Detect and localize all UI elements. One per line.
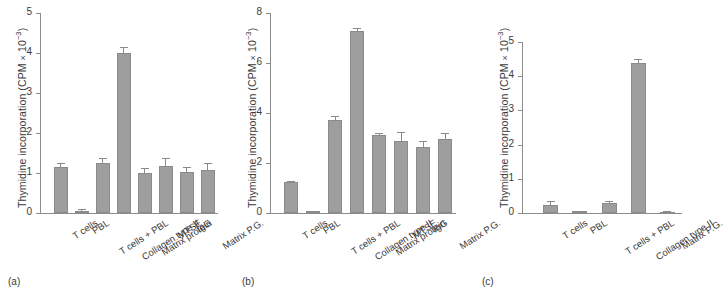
y-axis-tick-label: 2 bbox=[244, 156, 262, 167]
error-bar-cap bbox=[309, 211, 317, 212]
y-axis-label: Thymidine incorporation (CPM × 10−3) bbox=[244, 28, 258, 208]
y-axis-tick bbox=[36, 93, 40, 94]
y-axis-tick-label: 5 bbox=[14, 6, 32, 17]
bar bbox=[138, 173, 152, 213]
y-axis-tick-label: 3 bbox=[496, 103, 514, 114]
error-bar-cap bbox=[162, 158, 170, 159]
y-axis-tick bbox=[518, 145, 522, 146]
y-axis-tick bbox=[266, 13, 270, 14]
bar bbox=[159, 166, 173, 213]
error-bar bbox=[207, 163, 208, 170]
panel-b: Thymidine incorporation (CPM × 10−3)0246… bbox=[228, 0, 468, 298]
bar bbox=[306, 211, 320, 213]
y-axis-tick-label: 6 bbox=[244, 56, 262, 67]
x-axis-line bbox=[522, 213, 682, 214]
panel-caption: (b) bbox=[242, 276, 254, 287]
x-axis-line bbox=[270, 213, 456, 214]
y-axis-tick-label: 0 bbox=[14, 206, 32, 217]
error-bar-cap bbox=[287, 181, 295, 182]
panel-caption: (c) bbox=[482, 276, 494, 287]
error-bar-cap bbox=[353, 28, 361, 29]
y-axis-tick-label: 5 bbox=[496, 35, 514, 46]
y-axis-line bbox=[40, 13, 41, 213]
y-axis-tick-label: 1 bbox=[496, 172, 514, 183]
error-bar-cap bbox=[375, 133, 383, 134]
error-bar-cap bbox=[183, 167, 191, 168]
error-bar-cap bbox=[99, 158, 107, 159]
bar bbox=[201, 170, 215, 213]
y-axis-tick-label: 2 bbox=[496, 138, 514, 149]
bar bbox=[75, 211, 89, 213]
error-bar-cap bbox=[605, 201, 613, 202]
plot-area: 012345 bbox=[40, 13, 218, 213]
y-axis-tick bbox=[36, 53, 40, 54]
error-bar-cap bbox=[576, 211, 584, 212]
y-axis-tick bbox=[518, 213, 522, 214]
plot-area: 02468 bbox=[270, 13, 456, 213]
y-axis-tick-label: 4 bbox=[496, 69, 514, 80]
y-axis-tick-label: 0 bbox=[496, 206, 514, 217]
y-axis-tick-label: 8 bbox=[244, 6, 262, 17]
bar bbox=[328, 120, 342, 214]
error-bar bbox=[165, 158, 166, 166]
y-axis-tick bbox=[36, 213, 40, 214]
bar bbox=[602, 203, 617, 213]
y-axis-tick bbox=[266, 213, 270, 214]
error-bar-cap bbox=[57, 163, 65, 164]
y-axis-tick-label: 4 bbox=[244, 106, 262, 117]
bar bbox=[543, 205, 558, 213]
y-axis-tick bbox=[36, 173, 40, 174]
bar bbox=[284, 182, 298, 213]
panel-a: Thymidine incorporation (CPM × 10−3)0123… bbox=[0, 0, 230, 298]
y-axis-tick-label: 2 bbox=[14, 126, 32, 137]
y-axis-tick-label: 3 bbox=[14, 86, 32, 97]
error-bar-cap bbox=[141, 168, 149, 169]
y-axis-tick-label: 1 bbox=[14, 166, 32, 177]
bar bbox=[416, 147, 430, 213]
bar bbox=[631, 63, 646, 213]
panel-c: Thymidine incorporation (CPM × 10−3)0123… bbox=[470, 0, 710, 298]
error-bar-cap bbox=[120, 47, 128, 48]
bar bbox=[350, 31, 364, 213]
bar bbox=[117, 53, 131, 213]
y-axis-tick-label: 4 bbox=[14, 46, 32, 57]
error-bar-cap bbox=[397, 132, 405, 133]
y-axis-tick bbox=[266, 63, 270, 64]
bar bbox=[438, 139, 452, 214]
bar bbox=[96, 163, 110, 213]
panel-caption: (a) bbox=[8, 276, 20, 287]
y-axis-tick bbox=[518, 42, 522, 43]
y-axis-tick bbox=[518, 110, 522, 111]
y-axis-tick bbox=[36, 133, 40, 134]
error-bar-cap bbox=[419, 141, 427, 142]
bar bbox=[372, 135, 386, 213]
bar bbox=[180, 172, 194, 213]
error-bar-cap bbox=[331, 116, 339, 117]
y-axis-tick-label: 0 bbox=[244, 206, 262, 217]
plot-area: 012345 bbox=[522, 42, 682, 213]
error-bar-cap bbox=[78, 209, 86, 210]
error-bar-cap bbox=[663, 211, 671, 212]
x-axis-label: PBL bbox=[588, 217, 609, 236]
y-axis-line bbox=[270, 13, 271, 213]
y-axis-tick bbox=[518, 76, 522, 77]
bar bbox=[54, 167, 68, 213]
y-axis-tick bbox=[266, 113, 270, 114]
y-axis-line bbox=[522, 42, 523, 213]
error-bar-cap bbox=[204, 163, 212, 164]
y-axis-tick bbox=[36, 13, 40, 14]
x-axis-line bbox=[40, 213, 218, 214]
bar bbox=[394, 141, 408, 214]
x-axis-label: T cells bbox=[560, 217, 589, 241]
error-bar-cap bbox=[547, 201, 555, 202]
error-bar-cap bbox=[441, 133, 449, 134]
y-axis-tick bbox=[518, 179, 522, 180]
error-bar bbox=[401, 132, 402, 141]
y-axis-tick bbox=[266, 163, 270, 164]
error-bar-cap bbox=[634, 59, 642, 60]
